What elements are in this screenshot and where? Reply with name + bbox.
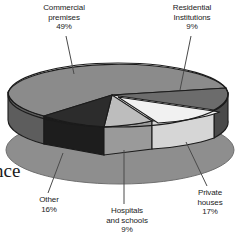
slice-label-other-line1: Other [22, 195, 76, 205]
slice-value-residential: 9% [152, 22, 232, 32]
slice-value-other: 16% [22, 205, 76, 215]
slice-label-private-houses: Private houses 17% [186, 188, 234, 217]
slice-label-residential-line1: Residential [152, 3, 232, 13]
slice-value-hospitals: 9% [86, 225, 168, 235]
slice-value-commercial: 49% [22, 22, 106, 32]
slice-label-commercial-line1: Commercial [22, 3, 106, 13]
pie-chart-figure: Commercial premises 49% Residential Inst… [0, 0, 236, 239]
slice-label-other: Other 16% [22, 195, 76, 214]
slice-label-residential: Residential Institutions 9% [152, 3, 232, 32]
slice-label-commercial-line2: premises [22, 13, 106, 23]
slice-label-private-line2: houses [186, 198, 234, 208]
slice-label-hospitals-line2: and schools [86, 216, 168, 226]
slice-label-hospitals: Hospitals and schools 9% [86, 206, 168, 235]
slice-label-residential-line2: Institutions [152, 13, 232, 23]
slice-value-private: 17% [186, 207, 234, 217]
slice-label-private-line1: Private [186, 188, 234, 198]
slice-label-hospitals-line1: Hospitals [86, 206, 168, 216]
slice-label-commercial: Commercial premises 49% [22, 3, 106, 32]
clipped-caption-text: nce [0, 160, 20, 182]
